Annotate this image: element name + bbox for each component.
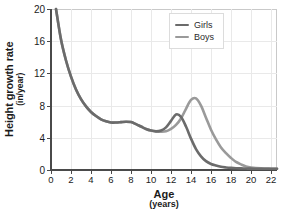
x-tick-label: 2 (68, 174, 73, 185)
y-tick-label: 12 (34, 68, 45, 79)
legend-label-girls: Girls (194, 20, 213, 30)
x-tick-label: 0 (48, 174, 53, 185)
legend-swatch-boys (175, 36, 189, 39)
plot-area: 0246810121416182022 048121620 (51, 9, 277, 170)
y-tick-label: 20 (34, 4, 45, 15)
legend-label-boys: Boys (194, 32, 214, 42)
x-tick-label: 10 (146, 174, 157, 185)
y-tick (47, 170, 51, 171)
x-tick-label: 14 (186, 174, 197, 185)
x-axis-title-units: (years) (51, 200, 277, 210)
x-tick-label: 6 (108, 174, 113, 185)
x-tick-label: 20 (246, 174, 257, 185)
legend-item-boys: Boys (175, 31, 217, 43)
x-tick-label: 22 (266, 174, 277, 185)
x-tick-label: 16 (206, 174, 217, 185)
data-curves (51, 9, 277, 170)
x-axis-title: Age (years) (51, 188, 277, 210)
legend-item-girls: Girls (175, 19, 217, 31)
y-axis-title-inner: Height growth rate (in/year) (5, 41, 25, 136)
y-axis-title: Height growth rate (in/year) (0, 0, 30, 178)
y-tick-label: 0 (39, 165, 45, 176)
y-tick-label: 8 (39, 100, 45, 111)
x-tick-label: 4 (88, 174, 93, 185)
legend-swatch-girls (175, 24, 189, 27)
series-line-boys (56, 9, 277, 169)
x-tick-label: 18 (226, 174, 237, 185)
x-tick-label: 8 (128, 174, 133, 185)
y-tick-label: 16 (34, 36, 45, 47)
y-axis-title-units: (in/year) (16, 41, 25, 136)
x-tick-label: 12 (166, 174, 177, 185)
chart-legend: Girls Boys (169, 13, 224, 49)
chart-figure: Height growth rate (in/year) 02468101214… (0, 0, 287, 222)
series-line-girls (56, 9, 277, 169)
y-tick-label: 4 (39, 132, 45, 143)
